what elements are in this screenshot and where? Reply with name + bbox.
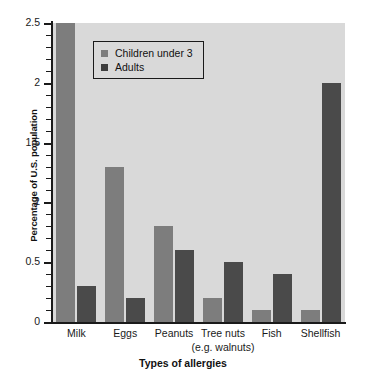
bar-fish-children <box>252 310 271 322</box>
y-tick-major <box>44 23 52 25</box>
y-tick-major <box>44 262 52 264</box>
y-tick-major <box>44 322 52 324</box>
y-tick-label: 0.5 <box>0 255 40 267</box>
y-tick-minor <box>46 190 52 191</box>
allergy-bar-chart: Percentage of U.S. population 00.511.522… <box>0 0 366 383</box>
y-tick-minor <box>46 119 52 120</box>
legend-swatch-children-icon <box>101 50 108 57</box>
bar-shellfish-children <box>301 310 320 322</box>
y-tick-minor <box>46 107 52 108</box>
y-tick-minor <box>46 47 52 48</box>
bar-milk-adults <box>77 286 96 322</box>
x-tick-label: Shellfish <box>276 327 366 339</box>
bar-shellfish-adults <box>322 83 341 322</box>
legend-swatch-adults-icon <box>101 64 108 71</box>
y-tick-minor <box>46 250 52 251</box>
y-tick-minor <box>46 298 52 299</box>
y-tick-minor <box>46 226 52 227</box>
y-tick-label: 2 <box>0 76 40 88</box>
y-tick-label: 1.5 <box>0 136 40 148</box>
y-tick-minor <box>46 71 52 72</box>
bar-peanuts-children <box>154 226 173 322</box>
y-tick-minor <box>46 167 52 168</box>
bar-tree-nuts-adults <box>224 262 243 322</box>
y-tick-major <box>44 202 52 204</box>
bar-fish-adults <box>273 274 292 322</box>
x-tick-sublabel: (e.g. walnuts) <box>173 341 273 353</box>
y-tick-minor <box>46 178 52 179</box>
bar-eggs-children <box>105 167 124 322</box>
legend-item-children: Children under 3 <box>101 46 193 60</box>
y-tick-label: 0 <box>0 315 40 327</box>
y-tick-minor <box>46 238 52 239</box>
legend-label-children: Children under 3 <box>115 47 193 59</box>
y-tick-minor <box>46 155 52 156</box>
y-tick-major <box>44 143 52 145</box>
y-tick-minor <box>46 35 52 36</box>
bar-milk-children <box>56 23 75 322</box>
y-tick-minor <box>46 274 52 275</box>
bar-peanuts-adults <box>175 250 194 322</box>
x-axis-title: Types of allergies <box>0 357 366 369</box>
chart-legend: Children under 3 Adults <box>93 41 204 79</box>
y-axis-line <box>51 21 53 324</box>
y-tick-minor <box>46 59 52 60</box>
y-tick-minor <box>46 214 52 215</box>
y-tick-label: 1 <box>0 195 40 207</box>
legend-label-adults: Adults <box>115 61 144 73</box>
y-tick-minor <box>46 310 52 311</box>
y-tick-major <box>44 83 52 85</box>
y-tick-minor <box>46 95 52 96</box>
bar-eggs-adults <box>126 298 145 322</box>
y-tick-minor <box>46 131 52 132</box>
legend-item-adults: Adults <box>101 60 193 74</box>
bar-tree-nuts-children <box>203 298 222 322</box>
y-tick-label: 2.5 <box>0 16 40 28</box>
x-axis-line <box>51 322 346 324</box>
y-tick-minor <box>46 286 52 287</box>
